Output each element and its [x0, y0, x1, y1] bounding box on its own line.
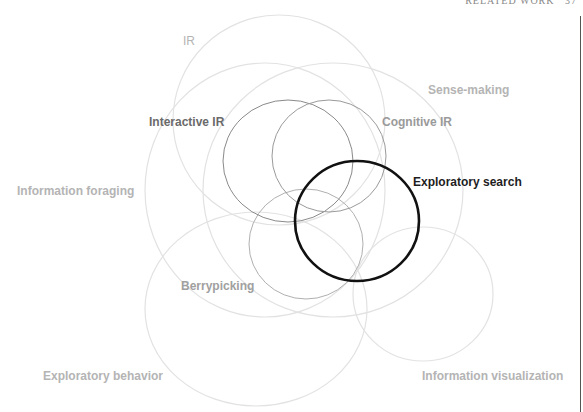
label-exploratory-behavior: Exploratory behavior	[43, 369, 163, 383]
circle-cognitive-ir	[272, 100, 386, 212]
label-information-visualization: Information visualization	[422, 369, 563, 383]
label-sense-making: Sense-making	[428, 83, 509, 97]
label-ir: IR	[183, 34, 195, 48]
label-exploratory-search: Exploratory search	[413, 175, 522, 189]
circle-berrypicking	[249, 189, 363, 299]
label-information-foraging: Information foraging	[17, 184, 134, 198]
circle-information-visualization	[353, 227, 493, 361]
label-berrypicking: Berrypicking	[181, 279, 254, 293]
venn-diagram	[0, 0, 583, 412]
circle-exploratory-search	[295, 161, 419, 281]
circle-exploratory-behavior	[145, 212, 367, 406]
label-cognitive-ir: Cognitive IR	[382, 115, 452, 129]
label-interactive-ir: Interactive IR	[149, 115, 224, 129]
circle-interactive-ir	[223, 100, 353, 222]
